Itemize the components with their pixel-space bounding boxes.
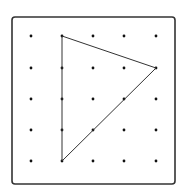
board-frame — [12, 17, 175, 184]
peg-dot — [155, 98, 158, 101]
peg-dot — [155, 35, 158, 38]
peg-dot — [30, 129, 33, 132]
peg-dot — [155, 129, 158, 132]
peg-dot — [123, 67, 126, 70]
triangle-shape — [62, 36, 156, 161]
peg-dot — [123, 160, 126, 163]
peg-dot — [92, 67, 95, 70]
peg-dot — [30, 160, 33, 163]
peg-dot — [92, 35, 95, 38]
peg-dot — [92, 160, 95, 163]
geoboard-diagram — [0, 0, 182, 195]
peg-dot — [123, 35, 126, 38]
peg-dot — [155, 160, 158, 163]
peg-dot — [30, 35, 33, 38]
peg-dot — [92, 98, 95, 101]
peg-grid — [30, 35, 158, 163]
peg-dot — [123, 129, 126, 132]
peg-dot — [30, 67, 33, 70]
peg-dot — [30, 98, 33, 101]
